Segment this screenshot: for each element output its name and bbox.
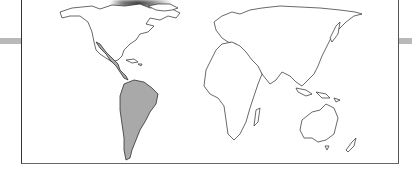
region-south-america <box>120 80 158 160</box>
region-new-zealand <box>346 138 356 152</box>
region-north-america <box>60 4 180 62</box>
world-map <box>0 0 412 175</box>
region-caribbean <box>126 59 142 66</box>
region-tasmania <box>325 146 329 150</box>
region-australia <box>300 104 338 142</box>
region-indonesia <box>296 88 340 102</box>
region-madagascar <box>254 108 260 126</box>
